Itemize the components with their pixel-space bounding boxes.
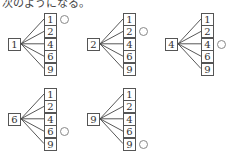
leaf-box: 4 [44, 38, 57, 51]
leaf-box: 6 [44, 125, 57, 138]
caption-text: 次のようになる。 [2, 0, 90, 10]
leaf-box: 9 [123, 138, 136, 151]
leaf-box: 2 [44, 25, 57, 38]
leaf-box: 1 [44, 13, 57, 26]
leaf-box: 1 [44, 88, 57, 101]
leaf-box: 2 [201, 25, 214, 38]
leaf-box: 6 [123, 125, 136, 138]
tree-root-2: 212469 [86, 13, 161, 77]
leaf-box: 4 [123, 113, 136, 126]
root-box: 9 [87, 113, 100, 126]
leaf-box: 9 [44, 63, 57, 76]
tree-root-1: 112469 [7, 13, 82, 77]
circle-mark-icon [60, 15, 69, 24]
root-box: 2 [87, 38, 100, 51]
leaf-box: 4 [44, 113, 57, 126]
tree-root-4: 412469 [164, 13, 226, 77]
leaf-box: 6 [201, 50, 214, 63]
leaf-box: 4 [201, 38, 214, 51]
tree-root-9: 912469 [86, 88, 161, 152]
root-box: 6 [8, 113, 21, 126]
leaf-box: 2 [123, 25, 136, 38]
leaf-box: 1 [123, 13, 136, 26]
circle-mark-icon [139, 140, 148, 149]
leaf-box: 6 [123, 50, 136, 63]
root-box: 1 [8, 38, 21, 51]
leaf-box: 1 [201, 13, 214, 26]
circle-mark-icon [217, 40, 226, 49]
root-box: 4 [165, 38, 178, 51]
leaf-box: 1 [123, 88, 136, 101]
leaf-box: 9 [123, 63, 136, 76]
leaf-box: 2 [44, 100, 57, 113]
leaf-box: 2 [123, 100, 136, 113]
tree-root-6: 612469 [7, 88, 82, 152]
leaf-box: 9 [44, 138, 57, 151]
leaf-box: 4 [123, 38, 136, 51]
leaf-box: 6 [44, 50, 57, 63]
leaf-box: 9 [201, 63, 214, 76]
